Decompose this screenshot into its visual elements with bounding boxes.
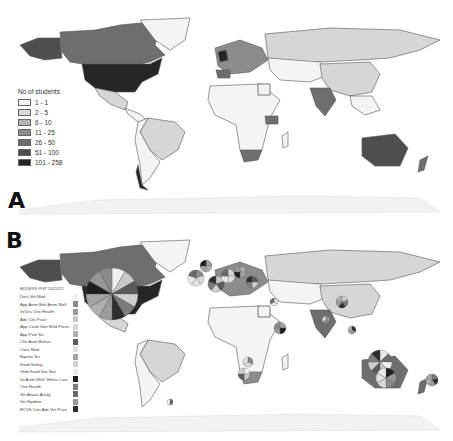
legend-item: 26 - 50 xyxy=(18,137,62,147)
legend-swatch xyxy=(73,316,78,322)
legend-label: 51 - 100 xyxy=(35,149,59,156)
legend-swatch xyxy=(73,309,78,315)
legend-item: 11 - 25 xyxy=(18,127,62,137)
pie-slice xyxy=(238,374,244,380)
legend-swatch xyxy=(73,391,78,397)
legend-item: Adv Clin Pract xyxy=(20,316,78,324)
legend-swatch xyxy=(18,119,31,126)
pie-slice xyxy=(200,266,206,272)
region-antarctica xyxy=(20,196,440,214)
legend-label: App Anim Beh Anim Welf xyxy=(20,302,66,307)
country-madagascar xyxy=(282,132,288,148)
panel-label-b: B xyxy=(6,228,23,253)
legend-label: 1 - 1 xyxy=(35,99,48,106)
country-alaska xyxy=(20,260,62,282)
legend-swatch xyxy=(18,159,31,166)
legend-item: 1 - 1 xyxy=(18,97,62,107)
country-egypt xyxy=(258,84,270,95)
pie-slice xyxy=(274,328,280,334)
legend-label: Inf Dis One Health xyxy=(20,309,54,314)
country-russia xyxy=(265,28,440,64)
legend-label: 26 - 50 xyxy=(35,139,55,146)
legend-item: Clin Anim Behav xyxy=(20,338,78,346)
legend-swatch xyxy=(73,331,78,337)
country-egypt xyxy=(258,306,270,317)
legend-label: Adv Clin Pract xyxy=(20,317,47,322)
legend-item: 51 - 100 xyxy=(18,147,62,157)
legend-swatch xyxy=(73,346,78,352)
country-kenya xyxy=(265,116,278,124)
legend-swatch xyxy=(73,399,78,405)
legend-label: App Conb Gen Wild Prevn xyxy=(20,324,69,329)
legend-label: 2 - 5 xyxy=(35,109,48,116)
legend-item: 2 - 5 xyxy=(18,107,62,117)
pie-slice xyxy=(206,266,212,272)
legend-label: App Poul Sci xyxy=(20,332,44,337)
country-madagascar xyxy=(282,354,288,370)
pie-slice xyxy=(280,322,286,328)
legend-swatch xyxy=(18,149,31,156)
legend-label: Dost Vet Med xyxy=(20,294,45,299)
legend-swatch xyxy=(73,384,78,390)
country-russia xyxy=(265,250,440,286)
legend-item: One Health xyxy=(20,383,78,391)
legend-swatch xyxy=(18,99,31,106)
pie-slice xyxy=(200,260,206,266)
legend-title-row: R(D)SVS PGT 2021/22· xyxy=(20,286,78,293)
legend-items: Dost Vet MedApp Anim Beh Anim WelfInf Di… xyxy=(20,293,78,413)
legend-swatch xyxy=(18,109,31,116)
region-se-asia xyxy=(350,96,380,115)
panel-b-pie-map: B R(D)SVS PGT 2021/22· Dost Vet MedApp A… xyxy=(0,222,453,441)
legend-label: Clin Anim Behav xyxy=(20,339,51,344)
legend-item: Dost Vet Med xyxy=(20,293,78,301)
legend-item: App Conb Gen Wild Prevn xyxy=(20,323,78,331)
legend-programmes: R(D)SVS PGT 2021/22· Dost Vet MedApp Ani… xyxy=(20,286,78,413)
country-spain xyxy=(216,70,230,78)
legend-swatch xyxy=(73,301,78,307)
pie-slice xyxy=(206,260,212,266)
legend-label: Glob Food Sec Nut xyxy=(20,369,56,374)
legend-swatch xyxy=(18,129,31,136)
pie-slice xyxy=(280,328,286,334)
legend-label: Food Safety xyxy=(20,362,43,367)
legend-label: Vet Anaes Analg xyxy=(20,392,51,397)
legend-title: R(D)SVS PGT 2021/22 xyxy=(20,286,63,293)
legend-label: Int Anim Welf, Ethics Law xyxy=(20,377,67,382)
legend-label: 6 - 10 xyxy=(35,119,52,126)
region-antarctica xyxy=(20,414,440,432)
legend-swatch xyxy=(73,324,78,330)
legend-item: RCVS Cert Adv Vet Pract xyxy=(20,406,78,414)
world-map-a xyxy=(0,0,453,222)
legend-swatch xyxy=(73,376,78,382)
country-australia xyxy=(362,134,408,166)
legend-swatch xyxy=(73,369,78,375)
legend-swatch xyxy=(73,354,78,360)
legend-swatch xyxy=(73,294,78,300)
country-alaska xyxy=(20,38,62,60)
country-new-zealand xyxy=(418,156,428,172)
legend-students: No of students 1 - 1 2 - 5 6 - 10 11 - 2… xyxy=(18,88,62,167)
pie-slice xyxy=(167,399,170,405)
legend-item: Int Anim Welf, Ethics Law xyxy=(20,376,78,384)
legend-swatch xyxy=(73,406,78,412)
legend-title: No of students xyxy=(18,88,62,95)
legend-item: 101 - 258 xyxy=(18,157,62,167)
legend-label: One Health xyxy=(20,384,41,389)
legend-item: Inf Dis One Health xyxy=(20,308,78,316)
legend-item: 6 - 10 xyxy=(18,117,62,127)
legend-label: RCVS Cert Adv Vet Pract xyxy=(20,407,67,412)
panel-a-choropleth-map: A No of students 1 - 1 2 - 5 6 - 10 11 -… xyxy=(0,0,453,222)
legend-swatch xyxy=(73,361,78,367)
country-south-africa xyxy=(240,150,262,162)
legend-label: Equine Sci xyxy=(20,354,40,359)
country-india xyxy=(310,310,336,338)
pie-slice xyxy=(170,399,173,405)
legend-item: App Anim Beh Anim Welf xyxy=(20,301,78,309)
legend-label: 101 - 258 xyxy=(35,159,62,166)
country-india xyxy=(310,88,336,116)
legend-item: App Poul Sci xyxy=(20,331,78,339)
legend-item: Vet Anaes Analg xyxy=(20,391,78,399)
legend-label: 11 - 25 xyxy=(35,129,55,136)
legend-item: Vet Epidem xyxy=(20,398,78,406)
legend-item: Cons Med xyxy=(20,346,78,354)
